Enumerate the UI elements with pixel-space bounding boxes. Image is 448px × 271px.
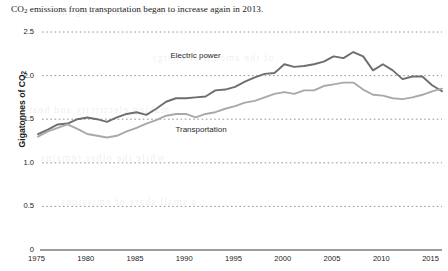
y-tick-label: 1.5 bbox=[4, 114, 34, 123]
chart-title-post: emissions from transportation began to i… bbox=[27, 4, 263, 14]
x-tick-label: 2005 bbox=[324, 254, 341, 263]
x-tick-label: 1975 bbox=[28, 254, 45, 263]
gridlines bbox=[42, 32, 442, 206]
series-line-transportation bbox=[38, 83, 442, 138]
chart-title: CO2 emissions from transportation began … bbox=[11, 4, 263, 15]
y-tick-label: 2.5 bbox=[4, 27, 34, 36]
y-tick-label: 1.0 bbox=[4, 158, 34, 167]
series-label-transportation: Transportation bbox=[175, 125, 226, 134]
x-tick-label: 1980 bbox=[77, 254, 94, 263]
series-line-electric-power bbox=[38, 52, 442, 134]
y-tick-label: 0.5 bbox=[4, 201, 34, 210]
plot-area bbox=[0, 0, 448, 271]
chart-title-pre: CO bbox=[11, 4, 24, 14]
x-tick-label: 2000 bbox=[274, 254, 291, 263]
series-label-electric-power: Electric power bbox=[170, 51, 220, 60]
x-tick-label: 1990 bbox=[176, 254, 193, 263]
y-axis-title-pre: Gigatonnes of CO bbox=[17, 74, 27, 147]
y-tick-label: 0 bbox=[4, 245, 34, 254]
y-tick-label: 2.0 bbox=[4, 71, 34, 80]
x-tick-label: 1995 bbox=[225, 254, 242, 263]
x-tick-label: 2015 bbox=[422, 254, 439, 263]
series-lines bbox=[38, 52, 442, 137]
x-tick-label: 2010 bbox=[373, 254, 390, 263]
chart-figure: CO2 emissions from transportation began … bbox=[0, 0, 448, 271]
x-tick-label: 1985 bbox=[127, 254, 144, 263]
